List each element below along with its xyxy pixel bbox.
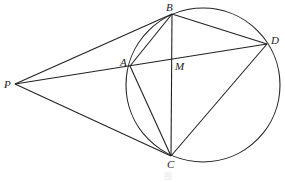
point-label-c: C bbox=[167, 158, 175, 170]
geometry-diagram: PABDMC 图 bbox=[0, 0, 285, 182]
segment-pd bbox=[15, 44, 267, 84]
segment-pb bbox=[15, 14, 172, 84]
point-label-p: P bbox=[3, 78, 11, 90]
segment-pc bbox=[15, 84, 171, 156]
figure-caption: 图 bbox=[164, 172, 172, 181]
point-label-d: D bbox=[270, 34, 279, 46]
segment-ac bbox=[130, 66, 171, 156]
segment-ab bbox=[130, 14, 172, 66]
circle bbox=[126, 8, 280, 162]
segment-cd bbox=[171, 44, 267, 156]
point-label-m: M bbox=[174, 60, 185, 72]
segment-bd bbox=[172, 14, 267, 44]
point-label-b: B bbox=[166, 1, 173, 13]
segment-bc bbox=[171, 14, 172, 156]
point-label-a: A bbox=[119, 56, 127, 68]
